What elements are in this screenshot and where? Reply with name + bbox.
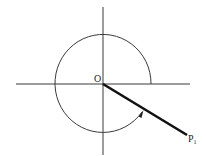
- point-label: P1: [188, 133, 197, 145]
- origin-label: O: [94, 73, 101, 84]
- rotation-angle-diagram: O P1: [0, 0, 206, 156]
- ray-O-P1: [103, 84, 187, 135]
- point-label-subscript: 1: [194, 139, 197, 145]
- arrowhead-icon: [139, 110, 144, 118]
